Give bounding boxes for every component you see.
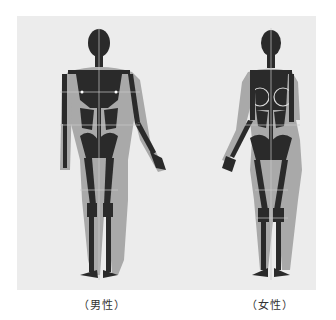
female-caption: （女性） [246, 296, 294, 312]
male-caption: （男性） [78, 296, 126, 312]
female-skeleton-figure [0, 0, 336, 320]
